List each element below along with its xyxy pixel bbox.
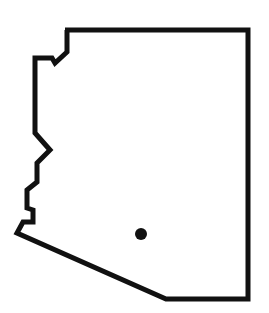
map-container bbox=[0, 0, 269, 313]
location-marker bbox=[135, 228, 147, 240]
state-outline bbox=[17, 30, 248, 299]
state-outline-map bbox=[0, 0, 269, 313]
